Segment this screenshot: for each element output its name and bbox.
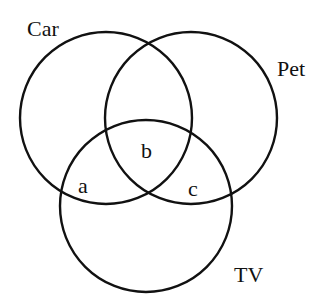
region-label-a: a <box>78 173 88 198</box>
region-label-b: b <box>141 138 152 163</box>
tv-set-label: TV <box>234 262 263 287</box>
car-set-label: Car <box>27 16 59 41</box>
pet-set-label: Pet <box>277 56 305 81</box>
region-label-c: c <box>188 176 198 201</box>
venn-diagram: Car Pet TV a b c <box>0 0 323 305</box>
